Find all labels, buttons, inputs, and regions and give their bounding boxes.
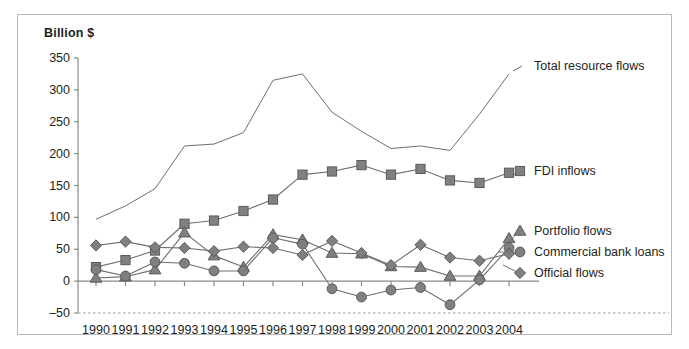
x-tick-label: 2003 <box>466 323 494 337</box>
y-tick-label: 150 <box>0 179 70 193</box>
y-tick-label: 0 <box>0 274 70 288</box>
series-label-fdi-inflows: FDI inflows <box>534 164 596 178</box>
x-tick-label: 1995 <box>230 323 258 337</box>
y-tick-label: 100 <box>0 210 70 224</box>
y-tick-label: 300 <box>0 83 70 97</box>
y-tick-label: 50 <box>0 242 70 256</box>
x-tick-label: 1993 <box>171 323 199 337</box>
x-tick-label: 2002 <box>436 323 464 337</box>
series-label-portfolio-flows: Portfolio flows <box>534 224 612 238</box>
x-tick-label: 1992 <box>141 323 169 337</box>
x-tick-label: 1991 <box>112 323 140 337</box>
x-tick-label: 2000 <box>377 323 405 337</box>
x-tick-label: 1999 <box>348 323 376 337</box>
y-axis-title: Billion $ <box>44 26 94 40</box>
x-tick-label: 1990 <box>82 323 110 337</box>
series-label-total-resource-flows: Total resource flows <box>534 59 644 73</box>
series-label-commercial-bank-loans: Commercial bank loans <box>534 245 665 259</box>
x-tick-label: 1998 <box>318 323 346 337</box>
x-tick-label: 2004 <box>495 323 523 337</box>
x-tick-label: 1994 <box>200 323 228 337</box>
x-tick-label: 1996 <box>259 323 287 337</box>
x-tick-label: 2001 <box>407 323 435 337</box>
chart-figure: Billion $ 350300250200150100500–50199019… <box>0 0 689 349</box>
x-tick-label: 1997 <box>289 323 317 337</box>
y-tick-label: –50 <box>0 306 70 320</box>
y-tick-label: 250 <box>0 115 70 129</box>
y-tick-label: 350 <box>0 51 70 65</box>
y-tick-label: 200 <box>0 147 70 161</box>
series-label-official-flows: Official flows <box>534 266 604 280</box>
